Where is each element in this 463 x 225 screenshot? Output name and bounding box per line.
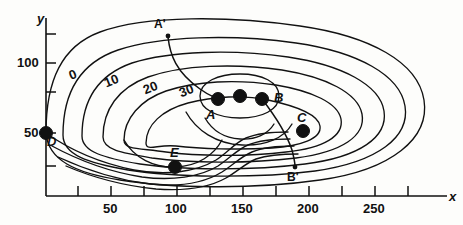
y-axis-label: y [37,11,44,26]
contour-level-20 [82,52,384,169]
y-tick-label-100: 100 [17,55,39,70]
contour-map-figure: y x 100 50 50 100 150 200 250 0 10 20 30… [0,0,463,225]
section-label-B-prime: B' [287,170,299,184]
contour-col-arc-2 [186,112,292,145]
x-tick-label-200: 200 [297,201,319,216]
x-tick-label-100: 100 [165,201,187,216]
y-tick-label-50: 50 [24,125,38,140]
point-marker-B[interactable] [256,93,269,106]
point-label-B: B [274,90,283,105]
contour-level-30 [103,66,362,162]
point-marker-C[interactable] [297,125,310,138]
point-marker-E[interactable] [169,161,182,174]
point-label-D: D [47,134,56,149]
point-marker-A[interactable] [212,93,225,106]
contour-plot-svg [0,0,463,225]
point-marker-Aprime[interactable] [166,34,171,39]
point-label-C: C [297,110,306,125]
x-tick-label-250: 250 [363,201,385,216]
point-marker-summit[interactable] [234,90,247,103]
x-tick-label-50: 50 [103,201,117,216]
point-label-E: E [170,145,179,160]
point-label-A: A [206,107,215,122]
x-tick-label-150: 150 [231,201,253,216]
x-axis-label: x [449,189,456,204]
section-label-A-prime: A' [154,17,166,31]
contour-curves [46,19,425,190]
contour-level-50 [146,97,320,149]
point-marker-Bprime[interactable] [293,165,298,170]
